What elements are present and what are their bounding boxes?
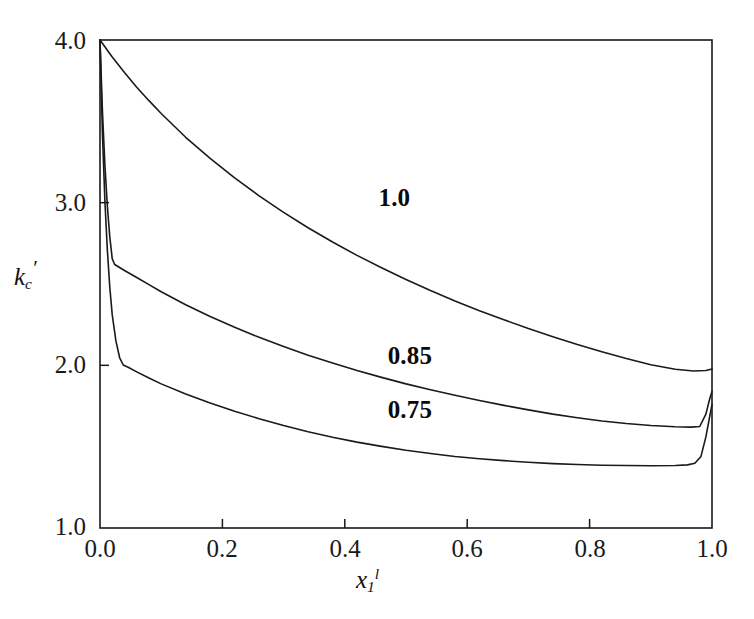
y-tick-label-3: 3.0	[28, 190, 86, 215]
x-tick-label-0: 0.0	[70, 536, 130, 561]
x-tick-label-1: 0.2	[192, 536, 252, 561]
curve-label-0-75: 0.75	[388, 397, 433, 422]
x-tick-label-2: 0.4	[315, 536, 375, 561]
x-tick-label-3: 0.6	[437, 536, 497, 561]
x-axis-title-base: x	[356, 566, 367, 593]
x-axis-title: x1l	[356, 566, 379, 595]
y-tick-label-2: 2.0	[28, 352, 86, 377]
chart-figure: 4.0 3.0 2.0 1.0 0.0 0.2 0.4 0.6 0.8 1.0 …	[0, 0, 754, 619]
plot-canvas	[0, 0, 754, 619]
y-axis-title: kc′	[14, 258, 37, 292]
x-axis-title-sup: l	[375, 565, 379, 582]
x-axis-title-sub: 1	[367, 578, 375, 595]
axis-ticks	[100, 203, 590, 528]
y-axis-title-sub: c	[25, 275, 32, 292]
y-axis-title-base: k	[14, 263, 25, 290]
curve-label-1-0: 1.0	[378, 185, 410, 210]
x-tick-label-4: 0.8	[560, 536, 620, 561]
y-axis-title-prime: ′	[32, 256, 37, 280]
curve-label-0-85: 0.85	[388, 343, 433, 368]
curve-0-85	[100, 40, 712, 427]
y-tick-label-4: 4.0	[28, 28, 86, 53]
plot-frame	[100, 40, 712, 528]
x-tick-label-5: 1.0	[682, 536, 742, 561]
